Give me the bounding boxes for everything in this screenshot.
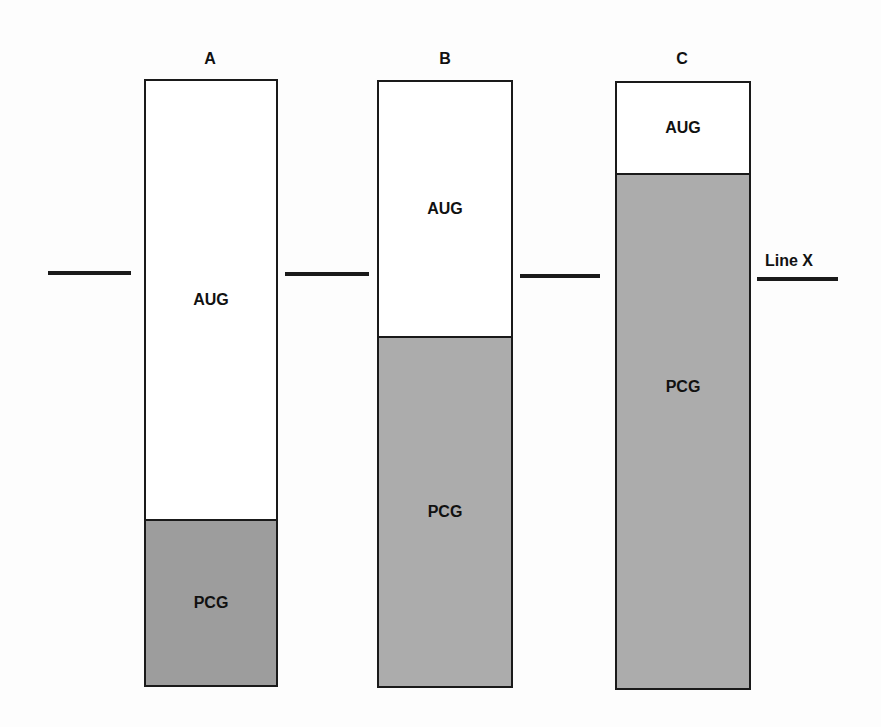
aug-segment-b: AUG (379, 82, 511, 336)
aug-label-c: AUG (665, 119, 701, 137)
line-x-segment-3 (520, 274, 600, 278)
column-b: AUG PCG (377, 80, 513, 688)
column-label-a: A (190, 50, 230, 68)
line-x-label: Line X (765, 252, 813, 270)
aug-segment-c: AUG (617, 83, 749, 173)
pcg-segment-a: PCG (146, 519, 276, 685)
column-c: AUG PCG (615, 81, 751, 690)
pcg-label-a: PCG (194, 594, 229, 612)
aug-label-b: AUG (427, 200, 463, 218)
aug-segment-a: AUG (146, 81, 276, 519)
pcg-segment-b: PCG (379, 336, 511, 686)
pcg-segment-c: PCG (617, 173, 749, 688)
pcg-label-b: PCG (428, 503, 463, 521)
line-x-segment-4 (757, 277, 838, 281)
line-x-segment-1 (48, 271, 131, 275)
aug-label-a: AUG (193, 291, 229, 309)
column-a: AUG PCG (144, 79, 278, 687)
line-x-segment-2 (285, 272, 369, 276)
pcg-label-c: PCG (666, 378, 701, 396)
column-label-b: B (425, 50, 465, 68)
column-label-c: C (662, 50, 702, 68)
